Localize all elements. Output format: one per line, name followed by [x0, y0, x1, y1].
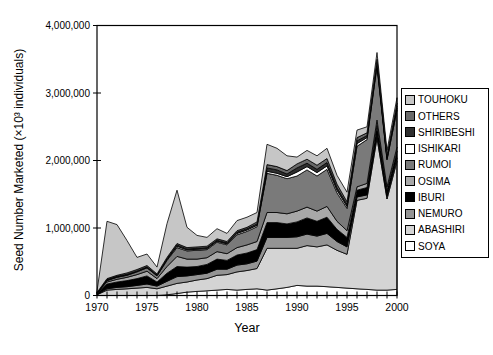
legend-swatch-shiribeshi: [405, 127, 415, 137]
y-axis-title: Seed Number Marketed (×10³ individuals): [12, 25, 28, 295]
x-tick-label: 1980: [185, 301, 209, 313]
legend-swatch-ishikari: [405, 144, 415, 154]
y-tick-label: 1,000,000: [46, 223, 91, 234]
legend-label-touhoku: TOUHOKU: [418, 94, 468, 105]
x-tick-label: 2000: [385, 301, 409, 313]
legend-item-nemuro: NEMURO: [405, 206, 488, 221]
legend-swatch-osima: [405, 176, 415, 186]
legend-swatch-abashiri: [405, 225, 415, 235]
legend-label-abashiri: ABASHIRI: [418, 224, 465, 235]
x-axis-title: Year: [97, 321, 397, 335]
x-tick-label: 1995: [335, 301, 359, 313]
legend-item-abashiri: ABASHIRI: [405, 222, 488, 237]
legend-swatch-rumoi: [405, 160, 415, 170]
legend-swatch-others: [405, 111, 415, 121]
legend-label-rumoi: RUMOI: [418, 159, 451, 170]
legend-label-nemuro: NEMURO: [418, 208, 462, 219]
legend-item-osima: OSIMA: [405, 174, 488, 189]
y-tick-label: 2,000,000: [46, 155, 91, 166]
y-tick-label: 3,000,000: [46, 88, 91, 99]
legend-label-shiribeshi: SHIRIBESHI: [418, 127, 475, 138]
x-tick-label: 1985: [235, 301, 259, 313]
legend-item-touhoku: TOUHOKU: [405, 92, 488, 107]
legend-label-ishikari: ISHIKARI: [418, 143, 461, 154]
legend-item-iburi: IBURI: [405, 190, 488, 205]
legend-swatch-iburi: [405, 192, 415, 202]
legend-label-others: OTHERS: [418, 111, 460, 122]
legend-item-others: OTHERS: [405, 109, 488, 124]
legend-swatch-touhoku: [405, 95, 415, 105]
x-tick-label: 1990: [285, 301, 309, 313]
x-tick-label: 1975: [135, 301, 159, 313]
legend-item-rumoi: RUMOI: [405, 157, 488, 172]
legend-item-shiribeshi: SHIRIBESHI: [405, 125, 488, 140]
y-tick-label: 4,000,000: [46, 20, 91, 31]
x-tick-label: 1970: [85, 301, 109, 313]
legend: TOUHOKUOTHERSSHIRIBESHIISHIKARIRUMOIOSIM…: [401, 88, 489, 258]
legend-label-iburi: IBURI: [418, 192, 445, 203]
stacked-area-figure: 01,000,0002,000,0003,000,0004,000,000197…: [0, 0, 493, 355]
legend-item-soya: SOYA: [405, 239, 488, 254]
legend-item-ishikari: ISHIKARI: [405, 141, 488, 156]
legend-label-osima: OSIMA: [418, 176, 450, 187]
y-tick-label: 0: [84, 290, 90, 301]
legend-swatch-nemuro: [405, 209, 415, 219]
legend-label-soya: SOYA: [418, 241, 445, 252]
legend-swatch-soya: [405, 241, 415, 251]
